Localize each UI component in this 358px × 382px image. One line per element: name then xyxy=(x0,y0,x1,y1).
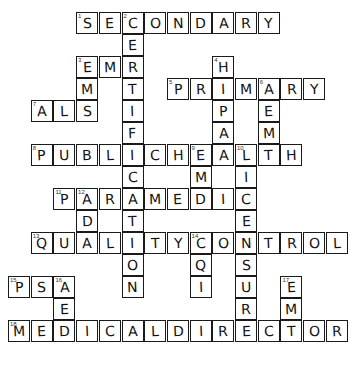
crossword-cell[interactable]: R xyxy=(212,320,234,342)
crossword-cell[interactable]: P xyxy=(212,100,234,122)
crossword-cell[interactable]: D xyxy=(190,188,212,210)
crossword-cell[interactable]: I xyxy=(212,188,234,210)
crossword-cell[interactable]: E xyxy=(235,320,257,342)
crossword-cell[interactable]: T xyxy=(258,232,280,254)
crossword-cell[interactable]: O xyxy=(212,232,234,254)
crossword-cell[interactable]: 14C xyxy=(190,232,212,254)
crossword-cell[interactable]: M xyxy=(99,56,121,78)
crossword-cell[interactable]: A xyxy=(212,122,234,144)
crossword-cell[interactable]: H xyxy=(280,144,302,166)
crossword-cell[interactable]: 18M xyxy=(8,320,30,342)
crossword-cell[interactable]: O xyxy=(303,232,325,254)
crossword-cell[interactable]: 1S xyxy=(76,12,98,34)
crossword-cell[interactable]: T xyxy=(280,320,302,342)
crossword-cell[interactable]: 16A xyxy=(53,276,75,298)
crossword-cell[interactable]: C xyxy=(99,320,121,342)
crossword-cell[interactable]: M xyxy=(280,298,302,320)
crossword-cell[interactable]: 13Q xyxy=(31,232,53,254)
crossword-cell[interactable]: B xyxy=(76,144,98,166)
crossword-cell[interactable]: S xyxy=(31,276,53,298)
crossword-cell[interactable]: U xyxy=(235,276,257,298)
crossword-cell[interactable]: R xyxy=(280,232,302,254)
crossword-cell[interactable]: I xyxy=(235,166,257,188)
crossword-cell[interactable]: 11P xyxy=(53,188,75,210)
crossword-cell[interactable]: F xyxy=(122,122,144,144)
crossword-cell[interactable]: M xyxy=(76,78,98,100)
crossword-cell[interactable]: I xyxy=(122,100,144,122)
crossword-cell[interactable]: 8P xyxy=(31,144,53,166)
crossword-cell[interactable]: R xyxy=(122,56,144,78)
crossword-cell[interactable]: 2C xyxy=(122,12,144,34)
crossword-cell[interactable]: D xyxy=(190,12,212,34)
crossword-cell[interactable]: O xyxy=(122,254,144,276)
crossword-cell[interactable]: D xyxy=(76,210,98,232)
crossword-cell[interactable]: O xyxy=(303,320,325,342)
crossword-cell[interactable]: R xyxy=(99,188,121,210)
crossword-cell[interactable]: I xyxy=(76,320,98,342)
crossword-cell[interactable]: C xyxy=(122,166,144,188)
crossword-cell[interactable]: Y xyxy=(167,232,189,254)
crossword-cell[interactable]: R xyxy=(190,78,212,100)
crossword-cell[interactable]: L xyxy=(53,100,75,122)
crossword-cell[interactable]: S xyxy=(76,100,98,122)
crossword-cell[interactable]: I xyxy=(122,144,144,166)
crossword-cell[interactable]: L xyxy=(144,320,166,342)
crossword-cell[interactable]: S xyxy=(235,254,257,276)
crossword-cell[interactable]: N xyxy=(167,12,189,34)
crossword-cell[interactable]: A xyxy=(212,144,234,166)
crossword-cell[interactable]: 9E xyxy=(190,144,212,166)
crossword-cell[interactable]: H xyxy=(167,144,189,166)
crossword-cell[interactable]: A xyxy=(122,320,144,342)
crossword-cell[interactable]: C xyxy=(235,188,257,210)
crossword-cell[interactable]: 7A xyxy=(31,100,53,122)
crossword-cell[interactable]: N xyxy=(235,232,257,254)
crossword-cell[interactable]: 3E xyxy=(76,56,98,78)
crossword-cell[interactable]: 5P xyxy=(167,78,189,100)
crossword-cell[interactable]: A xyxy=(76,232,98,254)
crossword-cell[interactable]: 15P xyxy=(8,276,30,298)
crossword-cell[interactable]: L xyxy=(99,144,121,166)
crossword-cell[interactable]: 4H xyxy=(212,56,234,78)
crossword-cell[interactable]: T xyxy=(122,210,144,232)
crossword-cell[interactable]: E xyxy=(258,100,280,122)
crossword-cell[interactable]: 6A xyxy=(258,78,280,100)
crossword-cell[interactable]: C xyxy=(144,144,166,166)
crossword-cell[interactable]: R xyxy=(235,12,257,34)
crossword-cell[interactable]: C xyxy=(258,320,280,342)
crossword-cell[interactable]: 12A xyxy=(76,188,98,210)
crossword-cell[interactable]: E xyxy=(99,12,121,34)
crossword-cell[interactable]: I xyxy=(212,78,234,100)
crossword-cell[interactable]: Y xyxy=(303,78,325,100)
crossword-cell[interactable]: R xyxy=(235,298,257,320)
crossword-cell[interactable]: M xyxy=(190,166,212,188)
crossword-cell[interactable]: E xyxy=(167,188,189,210)
crossword-cell[interactable]: L xyxy=(326,232,348,254)
crossword-cell[interactable]: 17E xyxy=(280,276,302,298)
crossword-cell[interactable]: M xyxy=(144,188,166,210)
crossword-cell[interactable]: R xyxy=(326,320,348,342)
crossword-cell[interactable]: E xyxy=(53,298,75,320)
crossword-cell[interactable]: A xyxy=(122,188,144,210)
crossword-cell[interactable]: T xyxy=(144,232,166,254)
crossword-cell[interactable]: Y xyxy=(258,12,280,34)
crossword-cell[interactable]: 10L xyxy=(235,144,257,166)
crossword-cell[interactable]: N xyxy=(122,276,144,298)
crossword-cell[interactable]: T xyxy=(122,78,144,100)
crossword-cell[interactable]: A xyxy=(212,12,234,34)
crossword-cell[interactable]: D xyxy=(53,320,75,342)
crossword-cell[interactable]: E xyxy=(122,34,144,56)
crossword-cell[interactable]: M xyxy=(258,122,280,144)
crossword-cell[interactable]: U xyxy=(53,144,75,166)
crossword-cell[interactable]: I xyxy=(190,320,212,342)
crossword-cell[interactable]: M xyxy=(235,78,257,100)
crossword-cell[interactable]: R xyxy=(280,78,302,100)
crossword-cell[interactable]: D xyxy=(167,320,189,342)
crossword-cell[interactable]: E xyxy=(31,320,53,342)
crossword-cell[interactable]: Q xyxy=(190,254,212,276)
crossword-cell[interactable]: E xyxy=(235,210,257,232)
crossword-cell[interactable]: I xyxy=(190,276,212,298)
crossword-cell[interactable]: T xyxy=(258,144,280,166)
crossword-cell[interactable]: L xyxy=(99,232,121,254)
crossword-cell[interactable]: O xyxy=(144,12,166,34)
crossword-cell[interactable]: U xyxy=(53,232,75,254)
